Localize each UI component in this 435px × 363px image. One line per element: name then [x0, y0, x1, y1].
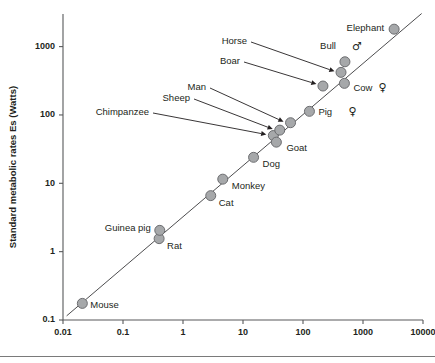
leader-line-boar [244, 62, 311, 83]
point-label-monkey: Monkey [232, 180, 266, 191]
sex-symbol-cow: ♀ [378, 81, 386, 94]
data-point-cow[interactable] [339, 78, 349, 88]
plot-canvas: 0.111010010000.010.1110100100010000Stand… [0, 0, 435, 363]
leader-line-chimpanzee [153, 113, 261, 134]
data-point-dog[interactable] [249, 152, 259, 162]
point-label-elephant: Elephant [347, 22, 385, 33]
x-tick-label: 1 [180, 327, 185, 337]
leader-arrowhead-horse [329, 67, 335, 72]
point-label-man: Man [188, 81, 206, 92]
data-point-mouse[interactable] [77, 298, 87, 308]
x-tick-label: 10000 [410, 327, 435, 337]
data-point-man[interactable] [286, 118, 296, 128]
x-tick-label: 1000 [353, 327, 373, 337]
point-label-dog: Dog [263, 158, 280, 169]
x-tick-label: 10 [238, 327, 248, 337]
y-tick-label: 0.1 [42, 314, 55, 324]
x-tick-label: 100 [295, 327, 310, 337]
leader-arrowhead-chimpanzee [261, 131, 267, 136]
x-tick-label: 0.01 [54, 327, 72, 337]
leader-line-man [210, 88, 279, 120]
y-tick-label: 10 [45, 178, 55, 188]
point-label-rat: Rat [167, 240, 182, 251]
plot-axes [63, 14, 423, 320]
data-point-cat[interactable] [206, 191, 216, 201]
regression-line [67, 14, 422, 316]
y-tick-label: 100 [40, 109, 55, 119]
leader-arrowhead-boar [311, 80, 317, 85]
point-label-guinea-pig: Guinea pig [105, 222, 151, 233]
point-label-mouse: Mouse [90, 299, 119, 310]
data-point-boar[interactable] [318, 81, 328, 91]
data-point-elephant[interactable] [389, 24, 399, 34]
data-point-sheep[interactable] [275, 125, 285, 135]
point-label-cat: Cat [219, 197, 234, 208]
point-label-boar: Boar [220, 55, 240, 66]
sex-symbol-pig: ♀ [348, 105, 356, 118]
y-tick-label: 1000 [35, 41, 55, 51]
y-tick-label: 1 [50, 246, 55, 256]
data-point-pig[interactable] [304, 106, 314, 116]
data-point-monkey[interactable] [218, 174, 228, 184]
leader-line-horse [251, 42, 330, 70]
data-point-guinea-pig[interactable] [155, 225, 165, 235]
sex-symbol-bull: ♂ [352, 40, 362, 53]
point-label-chimpanzee: Chimpanzee [96, 106, 149, 117]
footer-divider [0, 356, 435, 357]
data-point-bull[interactable] [340, 57, 350, 67]
point-label-bull: Bull [320, 40, 336, 51]
point-label-goat: Goat [286, 142, 307, 153]
metabolic-rate-scatter-figure: 0.111010010000.010.1110100100010000Stand… [0, 0, 435, 363]
point-label-cow: Cow [353, 82, 372, 93]
point-label-pig: Pig [318, 106, 332, 117]
point-label-sheep: Sheep [163, 92, 190, 103]
point-label-horse: Horse [222, 35, 247, 46]
y-axis-title: Standard metabolic rates Es (Watts) [7, 86, 18, 248]
data-point-goat[interactable] [271, 137, 281, 147]
data-point-horse[interactable] [336, 67, 346, 77]
x-tick-label: 0.1 [117, 327, 130, 337]
